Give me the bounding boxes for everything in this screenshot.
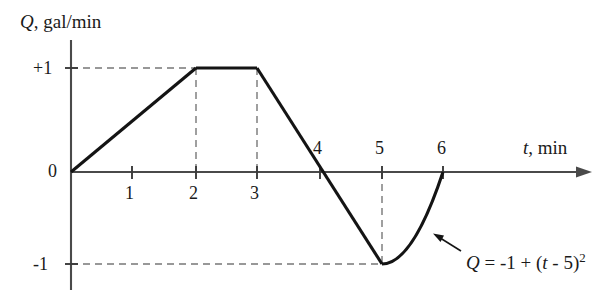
curve-ramp-up [71, 68, 196, 172]
curve-parabola [382, 172, 443, 264]
guide-lines [71, 68, 382, 264]
equation-exponent: 2 [579, 250, 585, 265]
y-value-label-minus-one: -1 [33, 255, 48, 273]
x-axis-units: , min [528, 137, 567, 158]
y-value-label-plus-one: +1 [33, 59, 52, 77]
y-value-label-zero: 0 [48, 162, 57, 180]
curve-equation-annotation: Q = -1 + (t - 5)2 [466, 252, 586, 272]
x-tick-label-4: 4 [313, 139, 322, 157]
annotation-arrow [433, 234, 461, 252]
x-tick-label-6: 6 [437, 139, 446, 157]
y-axis-symbol: Q [20, 11, 34, 32]
x-axis-arrowhead [576, 167, 592, 178]
flow-rate-figure: Q, gal/min t, min +1 0 -1 1 2 3 4 5 6 Q … [0, 0, 612, 306]
x-tick-label-1: 1 [125, 184, 134, 202]
y-axis-title: Q, gal/min [20, 12, 101, 31]
equation-rhs: = -1 + ( [480, 252, 543, 273]
x-axis-title: t, min [523, 138, 567, 157]
x-tick-label-5: 5 [375, 139, 384, 157]
equation-tail: - 5) [548, 252, 580, 273]
x-tick-label-3: 3 [250, 184, 259, 202]
y-axis-units: , gal/min [34, 11, 102, 32]
curve-ramp-down [257, 68, 382, 264]
x-tick-label-2: 2 [189, 184, 198, 202]
equation-lhs-symbol: Q [466, 252, 480, 273]
